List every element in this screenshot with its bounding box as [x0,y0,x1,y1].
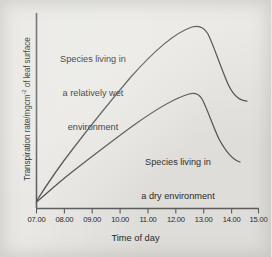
chart-figure: Transpiration rate/mgcm-2 of leaf surfac… [0,0,271,257]
x-axis-title: Time of day [0,233,271,244]
y-axis-title: Transpiration rate/mgcm-2 of leaf surfac… [23,9,33,209]
wet-species-label-line-2: a relatively wet [41,88,145,99]
wet-species-label-line-3: environment [41,122,145,133]
x-tick-label-1500: 15.00 [244,215,272,224]
dry-species-label-line-1: Species living in [126,157,230,168]
x-tick-label-0700: 07.00 [22,215,52,224]
x-tick-label-0800: 08.00 [49,215,79,224]
y-axis-title-main: Transpiration rate/mgcm [23,95,32,181]
dry-species-label: Species living in a dry environment [126,135,230,225]
x-tick-label-0900: 09.00 [77,215,107,224]
wet-species-label-line-1: Species living in [41,54,145,65]
dry-species-label-line-2: a dry environment [126,191,230,202]
y-axis-title-tail: of leaf surface [23,37,32,89]
y-axis-title-superscript: -2 [21,89,27,94]
